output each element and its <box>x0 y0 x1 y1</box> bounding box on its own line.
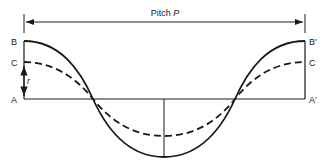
label-c-left: C <box>11 58 18 68</box>
label-b-right: B′ <box>309 37 317 47</box>
label-a-left: A <box>11 95 17 105</box>
label-r: r <box>27 76 31 86</box>
pitch-diagram: Pitch P B C r A B′ C A′ <box>0 0 330 167</box>
label-b-left: B <box>11 37 17 47</box>
label-c-right: C <box>309 58 316 68</box>
pitch-label: Pitch P <box>151 8 180 18</box>
label-a-right: A′ <box>309 95 317 105</box>
